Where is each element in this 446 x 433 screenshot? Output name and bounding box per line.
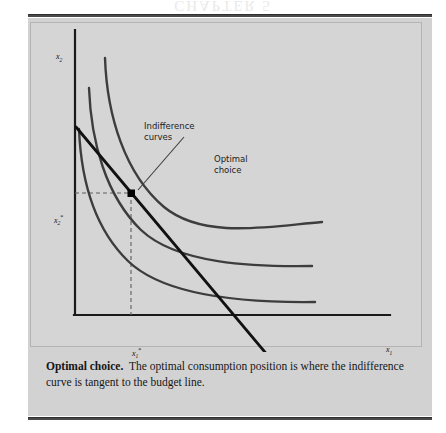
budget-line-group [76, 127, 285, 352]
plot-panel: Indifference curves Optimal choice x2 x1… [28, 18, 432, 352]
indifference-curves-label: Indifference curves [144, 121, 195, 142]
optimal-choice-label: Optimal choice [214, 154, 248, 175]
plot-svg [28, 18, 432, 352]
figure-top-rule [28, 14, 432, 17]
page-ghost-text: CHAPTER 5 [0, 0, 446, 14]
indifference-curves-group [79, 58, 322, 302]
figure-bottom-rule [28, 417, 432, 420]
figure-page: CHAPTER 5 [0, 0, 446, 433]
figure-caption: Optimal choice. The optimal consumption … [46, 358, 420, 390]
x-axis-label: x1 [386, 345, 392, 356]
figure-body: Indifference curves Optimal choice x2 x1… [28, 18, 432, 416]
x-axis-label-subscript: 1 [390, 350, 393, 356]
indifference-curve-high [105, 58, 322, 228]
optimal-choice-point [128, 190, 136, 198]
budget-line [76, 127, 285, 352]
y-tick-subscript: 2 [58, 220, 61, 226]
indifference-curve-mid [89, 88, 312, 266]
y-axis-tick-label-x2-star: x2* [54, 214, 63, 226]
caption-title: Optimal choice. [46, 360, 123, 372]
y-axis-label-subscript: 2 [60, 57, 63, 63]
optimal-choice-leader-line [138, 137, 184, 190]
x-tick-star: * [138, 347, 141, 353]
indifference-curve-low [79, 129, 315, 302]
y-axis-label: x2 [56, 52, 62, 63]
y-tick-star: * [60, 214, 63, 220]
